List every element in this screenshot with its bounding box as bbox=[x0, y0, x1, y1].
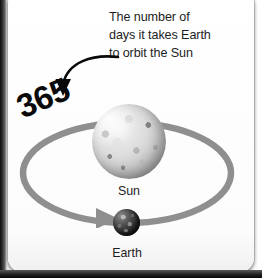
annotation-line-3: to orbit the Sun bbox=[109, 44, 241, 62]
sun-surface-texture bbox=[92, 104, 166, 179]
annotation-text: The number of days it takes Earth to orb… bbox=[109, 8, 241, 62]
earth-body bbox=[113, 209, 140, 236]
earth-surface-texture bbox=[113, 209, 140, 236]
sun-body bbox=[92, 104, 166, 179]
sun-label: Sun bbox=[92, 184, 166, 198]
annotation-line-1: The number of bbox=[109, 8, 241, 26]
annotation-line-2: days it takes Earth bbox=[109, 26, 241, 44]
earth-label: Earth bbox=[86, 246, 168, 260]
page-bottom-shadow bbox=[0, 270, 262, 278]
diagram-screenshot: The number of days it takes Earth to orb… bbox=[0, 0, 262, 278]
